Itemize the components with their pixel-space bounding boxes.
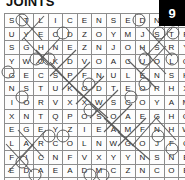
grid-cell[interactable]: S — [164, 68, 179, 82]
grid-cell[interactable]: E — [34, 123, 49, 137]
grid-cell[interactable]: T — [34, 82, 49, 96]
grid-cell[interactable]: F — [5, 150, 20, 164]
grid-cell[interactable]: E — [121, 14, 136, 28]
grid-cell[interactable]: N — [48, 150, 63, 164]
grid-cell[interactable]: V — [77, 55, 92, 69]
grid-cell[interactable]: S — [150, 27, 165, 41]
grid-cell[interactable]: X — [92, 150, 107, 164]
grid-cell[interactable]: B — [5, 178, 20, 180]
grid-cell[interactable]: M — [179, 178, 185, 180]
grid-cell[interactable]: D — [150, 178, 165, 180]
grid-cell[interactable]: C — [48, 137, 63, 151]
grid-cell[interactable]: P — [63, 109, 78, 123]
grid-cell[interactable]: Y — [121, 150, 136, 164]
grid-cell[interactable]: S — [106, 14, 121, 28]
grid-cell[interactable]: N — [135, 164, 150, 178]
grid-cell[interactable]: G — [63, 178, 78, 180]
grid-cell[interactable]: I — [135, 178, 150, 180]
grid-cell[interactable]: N — [150, 68, 165, 82]
grid-cell[interactable]: F — [63, 150, 78, 164]
grid-cell[interactable]: F — [135, 123, 150, 137]
grid-cell[interactable]: R — [34, 178, 49, 180]
grid-cell[interactable]: C — [179, 137, 185, 151]
grid-cell[interactable]: E — [5, 164, 20, 178]
grid-cell[interactable]: R — [34, 137, 49, 151]
grid-cell[interactable]: G — [19, 123, 34, 137]
grid-cell[interactable]: Z — [121, 164, 136, 178]
grid-cell[interactable]: L — [34, 14, 49, 28]
grid-cell[interactable]: C — [48, 27, 63, 41]
grid-cell[interactable]: N — [5, 82, 20, 96]
grid-cell[interactable]: D — [19, 164, 34, 178]
grid-cell[interactable]: L — [5, 137, 20, 151]
grid-cell[interactable]: D — [63, 27, 78, 41]
grid-cell[interactable]: E — [63, 41, 78, 55]
grid-cell[interactable]: T — [106, 82, 121, 96]
grid-cell[interactable]: H — [164, 123, 179, 137]
grid-cell[interactable]: M — [48, 178, 63, 180]
grid-cell[interactable]: D — [92, 82, 107, 96]
grid-cell[interactable]: E — [179, 164, 185, 178]
grid-cell[interactable]: I — [48, 14, 63, 28]
grid-cell[interactable]: R — [150, 82, 165, 96]
grid-cell[interactable]: W — [92, 96, 107, 110]
grid-cell[interactable]: A — [106, 123, 121, 137]
grid-cell[interactable]: D — [135, 14, 150, 28]
grid-cell[interactable]: A — [106, 55, 121, 69]
grid-cell[interactable]: M — [121, 123, 136, 137]
grid-cell[interactable]: C — [34, 150, 49, 164]
grid-cell[interactable]: E — [164, 178, 179, 180]
grid-cell[interactable]: Z — [63, 123, 78, 137]
grid-cell[interactable]: P — [179, 27, 185, 41]
grid-cell[interactable]: X — [77, 96, 92, 110]
grid-cell[interactable]: U — [5, 27, 20, 41]
grid-cell[interactable]: Y — [48, 123, 63, 137]
grid-cell[interactable]: O — [164, 164, 179, 178]
grid-cell[interactable]: W — [179, 123, 185, 137]
grid-cell[interactable]: A — [34, 164, 49, 178]
grid-cell[interactable]: F — [77, 68, 92, 82]
grid-cell[interactable]: O — [77, 109, 92, 123]
grid-cell[interactable]: T — [34, 109, 49, 123]
grid-cell[interactable]: I — [19, 150, 34, 164]
grid-cell[interactable]: O — [92, 27, 107, 41]
grid-cell[interactable]: H — [179, 68, 185, 82]
grid-cell[interactable]: R — [34, 96, 49, 110]
grid-cell[interactable]: A — [19, 137, 34, 151]
grid-cell[interactable]: G — [5, 68, 20, 82]
grid-cell[interactable]: C — [121, 55, 136, 69]
grid-cell[interactable]: C — [63, 14, 78, 28]
grid-cell[interactable]: U — [135, 55, 150, 69]
grid-cell[interactable]: S — [150, 150, 165, 164]
grid-cell[interactable]: O — [106, 109, 121, 123]
grid-cell[interactable]: Y — [19, 27, 34, 41]
grid-cell[interactable]: E — [92, 123, 107, 137]
grid-cell[interactable]: E — [48, 164, 63, 178]
grid-cell[interactable]: J — [150, 137, 165, 151]
grid-cell[interactable]: O — [77, 82, 92, 96]
grid-cell[interactable]: G — [121, 137, 136, 151]
grid-cell[interactable]: X — [5, 109, 20, 123]
grid-cell[interactable]: H — [135, 41, 150, 55]
grid-cell[interactable]: W — [19, 55, 34, 69]
grid-cell[interactable]: O — [63, 137, 78, 151]
grid-cell[interactable]: A — [164, 96, 179, 110]
grid-cell[interactable]: F — [164, 137, 179, 151]
grid-cell[interactable]: T — [19, 14, 34, 28]
grid-cell[interactable]: H — [164, 109, 179, 123]
grid-cell[interactable]: S — [92, 109, 107, 123]
grid-cell[interactable]: V — [77, 150, 92, 164]
grid-cell[interactable]: N — [135, 150, 150, 164]
grid-cell[interactable]: S — [19, 82, 34, 96]
grid-cell[interactable]: G — [150, 109, 165, 123]
grid-cell[interactable]: O — [34, 55, 49, 69]
grid-cell[interactable]: D — [63, 55, 78, 69]
grid-cell[interactable]: S — [106, 96, 121, 110]
grid-cell[interactable]: C — [106, 164, 121, 178]
grid-cell[interactable]: Y — [150, 96, 165, 110]
grid-cell[interactable]: A — [106, 178, 121, 180]
grid-cell[interactable]: Y — [106, 27, 121, 41]
grid-cell[interactable]: I — [5, 96, 20, 110]
grid-cell[interactable]: N — [92, 41, 107, 55]
grid-cell[interactable]: S — [5, 41, 20, 55]
